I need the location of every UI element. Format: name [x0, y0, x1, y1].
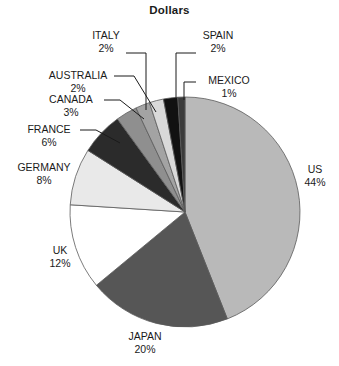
slice-label-us: US 44% [296, 163, 334, 188]
slice-label-mexico-percent: 1% [199, 87, 259, 100]
slice-label-us-percent: 44% [296, 176, 334, 189]
slice-label-canada: CANADA 3% [38, 93, 104, 118]
slice-label-canada-name: CANADA [49, 93, 93, 105]
slice-label-uk: UK 12% [38, 244, 82, 269]
slice-label-italy-name: ITALY [92, 29, 120, 41]
slice-label-germany-percent: 8% [6, 174, 82, 187]
slice-label-japan-name: JAPAN [128, 330, 161, 342]
slice-label-japan: JAPAN 20% [116, 330, 174, 355]
slice-label-mexico-name: MEXICO [208, 74, 249, 86]
slice-label-canada-percent: 3% [38, 106, 104, 119]
slice-label-mexico: MEXICO 1% [199, 74, 259, 99]
slice-label-uk-percent: 12% [38, 257, 82, 270]
pie-chart-figure: Dollars ITALY 2% SPAIN 2% AUSTRALIA 2% M… [0, 0, 339, 366]
slice-label-uk-name: UK [53, 244, 68, 256]
pie-slices-group [70, 97, 300, 327]
slice-label-spain: SPAIN 2% [194, 29, 242, 54]
slice-label-italy-percent: 2% [84, 42, 128, 55]
slice-label-japan-percent: 20% [116, 343, 174, 356]
slice-label-australia-name: AUSTRALIA [49, 69, 107, 81]
leader-line-italy [126, 53, 146, 110]
slice-label-us-name: US [308, 163, 323, 175]
slice-label-france: FRANCE 6% [18, 123, 80, 148]
slice-label-france-percent: 6% [18, 136, 80, 149]
slice-label-spain-percent: 2% [194, 42, 242, 55]
slice-label-italy: ITALY 2% [84, 29, 128, 54]
slice-label-france-name: FRANCE [27, 123, 70, 135]
slice-label-australia: AUSTRALIA 2% [40, 69, 116, 94]
slice-label-spain-name: SPAIN [203, 29, 234, 41]
slice-label-germany-name: GERMANY [17, 161, 70, 173]
slice-label-germany: GERMANY 8% [6, 161, 82, 186]
leader-line-spain [176, 53, 196, 99]
